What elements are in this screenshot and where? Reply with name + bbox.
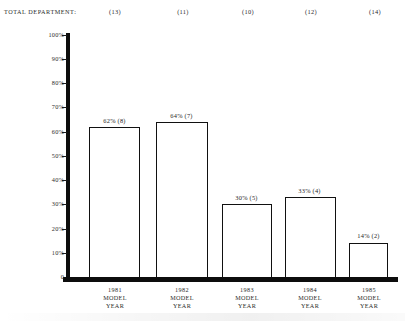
category-year-1985: 1985 (341, 286, 397, 294)
category-model-1983: MODEL (219, 294, 275, 302)
category-label-1984: 1984 MODEL YEAR (282, 286, 338, 311)
category-year-1981: 1981 (87, 286, 143, 294)
category-year-1983: 1983 (219, 286, 275, 294)
y-tick-0: 0 (0, 273, 64, 281)
scan-artifact (0, 313, 405, 321)
y-tick-mark-90 (62, 59, 67, 60)
total-department-label: TOTAL DEPARTMENT: (4, 8, 76, 15)
bar-value-1982: 64% (7) (154, 112, 209, 119)
category-yeartxt-1982: YEAR (154, 302, 210, 310)
y-tick-mark-40 (62, 180, 67, 181)
y-tick-mark-60 (62, 132, 67, 133)
bar-value-1983: 30% (5) (219, 194, 274, 201)
y-tick-40: 40% (0, 176, 64, 184)
y-tick-80: 80% (0, 79, 64, 87)
category-label-1981: 1981 MODEL YEAR (87, 286, 143, 311)
category-yeartxt-1985: YEAR (341, 302, 397, 310)
bar-1983 (222, 204, 272, 277)
bar-chart: TOTAL DEPARTMENT: (13) (11) (10) (12) (1… (0, 0, 405, 321)
department-count-1985: (14) (355, 8, 395, 15)
department-count-1981: (13) (95, 8, 135, 15)
y-tick-20: 20% (0, 225, 64, 233)
category-yeartxt-1983: YEAR (219, 302, 275, 310)
y-tick-60: 60% (0, 128, 64, 136)
y-tick-mark-10 (62, 253, 67, 254)
department-count-1984: (12) (291, 8, 331, 15)
category-model-1981: MODEL (87, 294, 143, 302)
x-axis-baseline (63, 277, 398, 282)
category-model-1984: MODEL (282, 294, 338, 302)
category-label-1985: 1985 MODEL YEAR (341, 286, 397, 311)
y-tick-label-0: 0 (61, 273, 64, 280)
y-tick-30: 30% (0, 200, 64, 208)
category-yeartxt-1984: YEAR (282, 302, 338, 310)
y-tick-50: 50% (0, 152, 64, 160)
category-label-1982: 1982 MODEL YEAR (154, 286, 210, 311)
bar-value-1985: 14% (2) (341, 232, 396, 239)
category-model-1982: MODEL (154, 294, 210, 302)
y-tick-mark-20 (62, 229, 67, 230)
category-yeartxt-1981: YEAR (87, 302, 143, 310)
bar-1982 (156, 122, 208, 277)
y-tick-mark-70 (62, 107, 67, 108)
y-tick-mark-100 (62, 35, 67, 36)
category-model-1985: MODEL (341, 294, 397, 302)
y-tick-100: 100% (0, 31, 64, 39)
bar-1981 (89, 127, 140, 277)
bar-1984 (285, 197, 336, 277)
category-label-1983: 1983 MODEL YEAR (219, 286, 275, 311)
department-count-1982: (11) (163, 8, 203, 15)
y-tick-mark-50 (62, 156, 67, 157)
bar-value-1981: 62% (8) (87, 117, 142, 124)
category-year-1982: 1982 (154, 286, 210, 294)
y-tick-mark-30 (62, 204, 67, 205)
category-year-1984: 1984 (282, 286, 338, 294)
y-tick-10: 10% (0, 249, 64, 257)
department-count-1983: (10) (228, 8, 268, 15)
y-tick-90: 90% (0, 55, 64, 63)
y-tick-70: 70% (0, 103, 64, 111)
bar-1985 (349, 243, 388, 277)
bar-value-1984: 33% (4) (282, 187, 337, 194)
y-tick-mark-80 (62, 83, 67, 84)
